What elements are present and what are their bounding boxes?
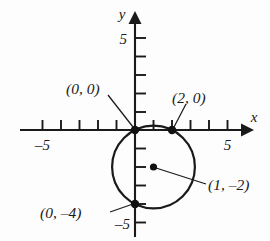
leader-two-zero bbox=[174, 104, 186, 127]
leader-one-negtwo bbox=[156, 168, 206, 184]
point-zero-negfour bbox=[131, 200, 139, 208]
graph-canvas: y x 5 –5 –5 5 (0, 0) (2, 0) (0, –4) (1, … bbox=[0, 0, 270, 241]
coordinate-plane-figure: y x 5 –5 –5 5 (0, 0) (2, 0) (0, –4) (1, … bbox=[0, 0, 270, 241]
point-two-zero bbox=[168, 126, 176, 134]
leader-origin bbox=[108, 95, 133, 127]
x-axis-label: x bbox=[250, 109, 258, 125]
y-axis-arrowhead bbox=[129, 11, 142, 24]
point-center bbox=[150, 163, 157, 170]
label-point-two-zero: (2, 0) bbox=[172, 89, 206, 107]
y-axis-label: y bbox=[117, 6, 126, 22]
x-tick-label-neg5: –5 bbox=[34, 137, 51, 153]
y-tick-label-neg5: –5 bbox=[114, 216, 131, 232]
label-point-zero-negfour: (0, –4) bbox=[40, 204, 81, 222]
y-tick-label-5: 5 bbox=[120, 31, 128, 47]
x-tick-label-5: 5 bbox=[224, 137, 232, 153]
label-point-one-negtwo: (1, –2) bbox=[208, 176, 249, 194]
leader-zero-negfour bbox=[110, 204, 133, 212]
point-origin bbox=[131, 126, 139, 134]
label-origin-point: (0, 0) bbox=[66, 80, 100, 98]
x-axis-arrowhead bbox=[241, 124, 254, 137]
